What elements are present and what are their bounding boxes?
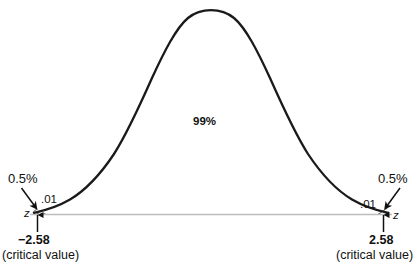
left-tail-percent-label: 0.5% bbox=[8, 172, 38, 185]
left-axis-z-label: z bbox=[24, 208, 30, 220]
left-critical-value-label: −2.58 bbox=[18, 234, 50, 247]
right-critical-value-caption: (critical value) bbox=[336, 249, 413, 262]
center-area-label: 99% bbox=[193, 116, 216, 128]
right-tail-leader-line bbox=[387, 188, 401, 207]
normal-distribution-figure: 99% 0.5% .01 z −2.58 (critical value) 0.… bbox=[0, 0, 420, 266]
right-tail-percent-label: 0.5% bbox=[378, 172, 408, 185]
left-tail-leader-line bbox=[22, 188, 36, 207]
distribution-plot-svg bbox=[0, 0, 420, 266]
right-axis-z-label: z bbox=[393, 210, 399, 222]
left-critical-value-caption: (critical value) bbox=[2, 249, 79, 262]
right-critical-value-label: 2.58 bbox=[369, 234, 393, 247]
left-tail-alpha-label: .01 bbox=[41, 194, 57, 206]
normal-curve bbox=[34, 10, 388, 213]
right-tail-alpha-label: .01 bbox=[360, 199, 376, 211]
